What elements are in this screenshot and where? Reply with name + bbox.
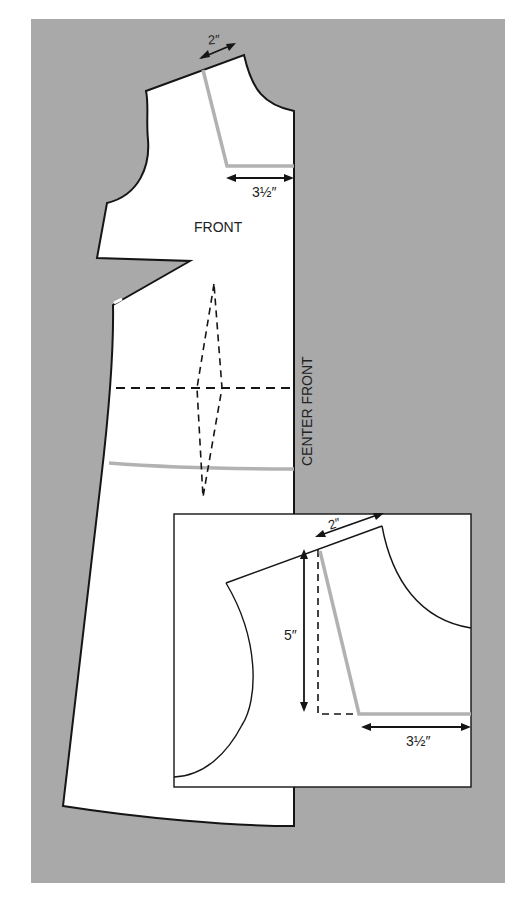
neckline-offset-label: 3½″ <box>252 184 276 200</box>
front-label: FRONT <box>194 219 243 235</box>
inset-vertical-label: 5″ <box>284 627 297 643</box>
pattern-diagram: 2″ 3½″ FRONT CENTER FRONT 2″ <box>0 0 513 897</box>
shoulder-width-label: 2″ <box>207 32 220 48</box>
inset-detail: 2″ 5″ 3½″ <box>174 513 471 787</box>
inset-horizontal-label: 3½″ <box>406 733 430 749</box>
center-front-label: CENTER FRONT <box>299 356 315 466</box>
